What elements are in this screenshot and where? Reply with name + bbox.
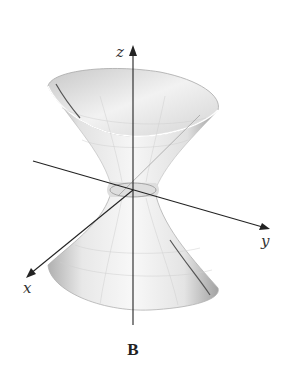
y-axis-label: y <box>261 234 269 249</box>
x-axis-label: x <box>23 281 31 296</box>
y-axis-arrow-icon <box>259 223 270 230</box>
hyperboloid-figure: z y x B <box>0 0 291 367</box>
z-axis-arrow-icon <box>129 45 137 56</box>
hyperboloid-diagram <box>0 0 291 367</box>
x-axis-arrow-icon <box>26 268 36 278</box>
figure-caption: B <box>0 340 266 360</box>
z-axis-label: z <box>116 45 124 60</box>
